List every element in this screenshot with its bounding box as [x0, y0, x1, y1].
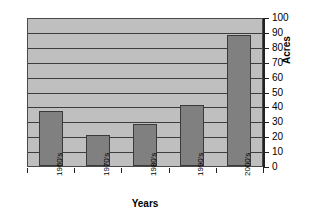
x-tick-label: 1990's	[196, 153, 205, 176]
y-tick	[263, 18, 269, 19]
x-tick	[27, 168, 28, 173]
y-tick-label: 10	[272, 147, 283, 157]
y-axis-title: Acres	[281, 24, 292, 64]
y-tick-label: 50	[272, 88, 283, 98]
bar-2000s[interactable]	[227, 35, 251, 166]
x-axis-title: Years	[0, 198, 290, 209]
x-tick-label: 1970's	[102, 153, 111, 176]
y-tick	[263, 48, 269, 49]
x-tick-label: 1960's	[55, 153, 64, 176]
y-tick-label: 30	[272, 117, 283, 127]
plot-area	[27, 18, 263, 167]
bar-slot	[28, 19, 75, 166]
y-tick	[263, 122, 269, 123]
y-tick	[263, 152, 269, 153]
y-tick-label: 0	[272, 162, 278, 172]
y-tick	[263, 78, 269, 79]
bar-slot	[122, 19, 169, 166]
bars-layer	[28, 19, 262, 166]
x-tick	[263, 168, 264, 173]
y-tick	[263, 63, 269, 64]
x-tick	[169, 168, 170, 173]
bar-chart: 0102030405060708090100 Acres Years 1960'…	[0, 0, 313, 219]
y-tick-label: 100	[272, 13, 289, 23]
y-tick	[263, 33, 269, 34]
x-tick-label: 1980's	[149, 153, 158, 176]
x-tick	[74, 168, 75, 173]
y-tick-label: 40	[272, 102, 283, 112]
y-tick-label: 20	[272, 132, 283, 142]
bar-slot	[75, 19, 122, 166]
bar-slot	[215, 19, 262, 166]
y-tick	[263, 107, 269, 108]
bar-slot	[168, 19, 215, 166]
x-tick-label: 2000's	[243, 153, 252, 176]
x-tick	[216, 168, 217, 173]
y-tick	[263, 137, 269, 138]
y-tick	[263, 93, 269, 94]
x-tick	[121, 168, 122, 173]
y-tick-label: 60	[272, 73, 283, 83]
